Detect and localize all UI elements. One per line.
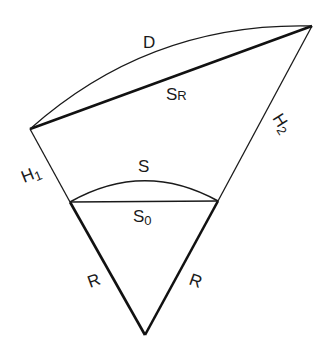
radius-right-line	[145, 201, 218, 335]
label-s0-sub: 0	[144, 213, 151, 228]
label-s: S	[138, 157, 149, 176]
label-s0: S0	[133, 207, 152, 228]
chord-sr-line	[30, 26, 312, 129]
label-sr: SR	[166, 85, 187, 104]
label-r-left: R	[85, 270, 103, 292]
label-sr-main: S	[166, 85, 177, 104]
label-h2: H2	[267, 110, 295, 138]
label-sr-sub: R	[177, 88, 186, 103]
geodetic-reduction-diagram: D SR S S0 H1 H2 R R	[0, 0, 321, 356]
chord-s0-line	[70, 201, 218, 202]
height-h1-line	[30, 129, 70, 202]
label-h1: H1	[18, 162, 44, 189]
height-h2-line	[218, 26, 312, 201]
label-s0-main: S	[133, 207, 144, 226]
label-r-right: R	[187, 270, 205, 292]
label-d: D	[143, 33, 155, 52]
arc-s-curve	[70, 181, 218, 202]
